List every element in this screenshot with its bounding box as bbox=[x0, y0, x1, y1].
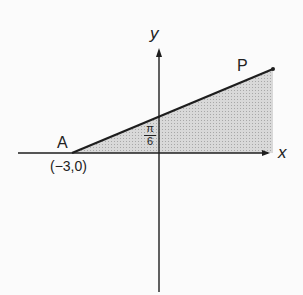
x-axis-label: x bbox=[278, 143, 287, 163]
point-p-dot bbox=[271, 67, 275, 71]
y-axis-label: y bbox=[150, 24, 159, 44]
diagram-canvas: y x P A (−3,0) π 6 bbox=[0, 0, 303, 295]
point-a-label: A bbox=[57, 134, 68, 152]
angle-denominator: 6 bbox=[143, 136, 157, 147]
diagram-graphic bbox=[0, 0, 303, 295]
y-axis-arrow-icon bbox=[156, 48, 162, 57]
point-p-label: P bbox=[237, 57, 248, 75]
angle-numerator: π bbox=[143, 123, 157, 134]
point-a-coordinates: (−3,0) bbox=[50, 158, 87, 174]
angle-label: π 6 bbox=[143, 123, 157, 147]
